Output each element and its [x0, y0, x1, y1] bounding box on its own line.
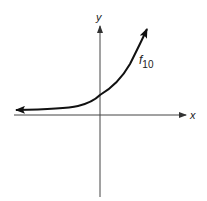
f10-curve: [16, 29, 147, 110]
y-axis-label: y: [95, 11, 103, 23]
exponential-graph: y x f10: [0, 0, 207, 201]
function-subscript: 10: [142, 59, 154, 70]
function-label: f10: [139, 53, 154, 70]
x-axis-label: x: [189, 109, 196, 121]
